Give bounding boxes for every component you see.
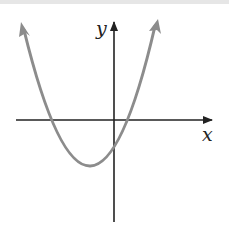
x-axis-label: x	[202, 123, 213, 145]
parabola-curve	[24, 26, 155, 166]
parabola-graph: y x	[0, 0, 229, 231]
y-axis-label: y	[95, 17, 107, 39]
